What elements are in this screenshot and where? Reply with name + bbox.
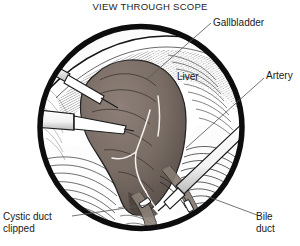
- label-bile-duct-line-1: Bile: [256, 211, 275, 223]
- label-gallbladder: Gallbladder: [213, 17, 264, 29]
- label-cystic-duct-line-2: clipped: [3, 223, 52, 235]
- scope-interior: [20, 24, 252, 236]
- label-cystic-duct-line-1: Cystic duct: [3, 211, 52, 223]
- label-liver: Liver: [177, 71, 199, 83]
- label-bile-duct-line-2: duct: [256, 223, 275, 235]
- illustration-root: VIEW THROUGH SCOPE: [0, 0, 300, 246]
- leader-bile-duct: [206, 196, 257, 215]
- scope-view-figure: [0, 0, 300, 246]
- label-artery: Artery: [266, 70, 293, 82]
- label-cystic-duct-clipped: Cystic duct clipped: [3, 211, 52, 234]
- label-bile-duct: Bile duct: [256, 211, 275, 234]
